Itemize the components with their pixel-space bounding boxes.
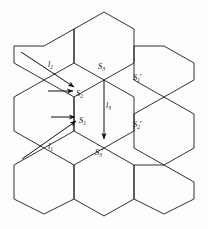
hex-cell-middle-left [14,80,74,148]
label-l3-subscript: 3 [108,105,111,111]
vector-arrows [21,52,104,159]
label-S1-subscript: 1 [83,120,86,126]
hexagon-lattice-svg [0,0,208,229]
label-l1: l1 [48,143,53,151]
hex-cell-bottom-right [134,165,194,214]
label-S3-prime-mark: ′ [102,147,104,157]
figure-canvas: S3 S2 S1 S1′ S2′ S3′ l2 l3 l1 [0,0,208,229]
hex-cell-upper-right [134,46,194,97]
hex-cell-middle-right [134,97,194,165]
label-S2-prime-mark: ′ [140,119,142,129]
label-S1-prime-mark: ′ [140,72,142,82]
label-l3: l3 [106,102,111,110]
label-S3-subscript: 3 [102,66,105,72]
label-S2: S2 [76,89,83,98]
hex-cell-bottom-center [74,148,134,216]
label-S2-subscript: 2 [80,93,83,99]
hex-cell-upper-left [14,29,74,80]
label-S2-prime: S2′ [133,120,142,129]
label-l1-subscript: 1 [50,146,53,152]
label-S3: S3 [98,62,105,71]
label-l2: l2 [48,61,53,69]
label-S3-prime: S3′ [95,148,104,157]
label-S1: S1 [79,116,86,125]
label-S1-prime: S1′ [133,73,142,82]
label-l2-subscript: 2 [50,64,53,70]
